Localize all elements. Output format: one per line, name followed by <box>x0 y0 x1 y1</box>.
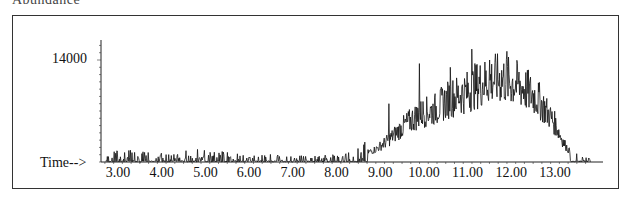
x-tick-label: 4.00 <box>149 165 174 181</box>
x-tick-label: 12.00 <box>496 165 528 181</box>
y-axis-ticks <box>97 45 101 162</box>
x-tick-label: 6.00 <box>237 165 262 181</box>
y-tick-label-14000: 14000 <box>52 51 87 67</box>
x-tick-label: 8.00 <box>324 165 349 181</box>
chromatogram-plot <box>0 0 628 206</box>
x-tick-label: 3.00 <box>106 165 131 181</box>
x-axis-label: Time--> <box>40 155 86 171</box>
chromatogram-trace <box>106 49 591 162</box>
x-tick-label: 13.00 <box>539 165 571 181</box>
x-tick-label: 10.00 <box>408 165 440 181</box>
x-tick-label: 11.00 <box>452 165 483 181</box>
x-tick-label: 5.00 <box>193 165 218 181</box>
x-tick-label: 9.00 <box>368 165 393 181</box>
x-tick-label: 7.00 <box>281 165 306 181</box>
